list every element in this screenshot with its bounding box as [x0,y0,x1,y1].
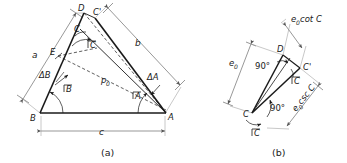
label-e0-cot-C: cot C [300,14,322,24]
label-p0-subscript: 0 [106,80,110,87]
delta-A-pointer [151,85,160,95]
label-vertex-A: A [167,112,174,122]
extension-line-b-a [166,87,181,112]
label-angle-C: C [90,40,96,50]
label-angle-A-group: A [133,91,141,101]
angle-arc-B [50,92,63,113]
caption-panel-b: (b) [272,147,285,158]
extension-line-csc-C [267,128,289,129]
label-right-angle-lower: 90° [270,103,285,113]
label-angle-C-lower-group: C [252,128,260,138]
label-angle-B: B [66,84,72,94]
dimension-arrow-e0 [228,44,251,104]
angle-arc-C-lower-panel-b [246,120,261,125]
label-side-b: b [135,38,141,48]
label-vertex-C-panel-b: C [243,109,249,119]
dimension-line-e0-cot-C [281,19,306,68]
dimension-arrow-b [108,8,180,85]
extension-line-cot-D [283,24,290,55]
label-angle-A: A [134,91,141,101]
triangle-main-outline [40,13,166,113]
label-delta-A: ΔA [146,72,159,82]
label-delta-B: ΔB [38,70,51,80]
label-vertex-E: E [50,47,56,57]
label-vertex-C-prime-panel-b: C' [303,62,311,72]
label-right-angle-upper: 90° [255,61,270,71]
label-vertex-D-panel-b: D [277,44,284,54]
label-e0-cot-C-group: e 0 cot C [291,14,322,26]
label-angle-C-upper: C [294,76,300,86]
label-angle-C-upper-group: C [292,76,300,86]
dashed-line-p0-E-A [58,56,166,110]
point-E-tick [55,53,62,59]
label-angle-C-lower: C [254,128,260,138]
label-e0-group: e 0 [229,58,238,70]
label-vertex-D: D [78,3,85,13]
technical-diagram-svg: a b c B A C C' D E ΔB ΔA B A [0,0,347,163]
label-angle-C-group: C [88,40,96,50]
extension-line-cot-start [281,19,286,23]
label-vertex-B: B [30,113,36,123]
label-side-c: c [99,127,104,137]
label-vertex-C: C [74,24,80,34]
dimension-tick-e0-end [223,102,233,106]
point-E-marker [55,53,62,59]
panel-b-group: e 0 e 0 cot C e 0 csc C 90° 90° D C' C C [223,14,323,158]
label-angle-B-group: B [64,84,72,94]
dashed-line-D-A [84,13,166,113]
label-side-a: a [32,50,38,60]
caption-panel-a: (a) [101,147,114,158]
label-vertex-C-prime: C' [93,7,101,17]
label-p0-group: p 0 [100,75,110,87]
label-e0-subscript: 0 [234,63,238,70]
panel-a-group: a b c B A C C' D E ΔB ΔA B A [17,3,185,158]
dimension-arrow-e0-cot-C [286,26,302,48]
dimension-tick-a-start [17,95,29,103]
extension-line-a-b [20,97,40,113]
figure-root: a b c B A C C' D E ΔB ΔA B A [0,0,347,163]
label-e0-csc-C-group: e 0 csc C [290,82,319,114]
